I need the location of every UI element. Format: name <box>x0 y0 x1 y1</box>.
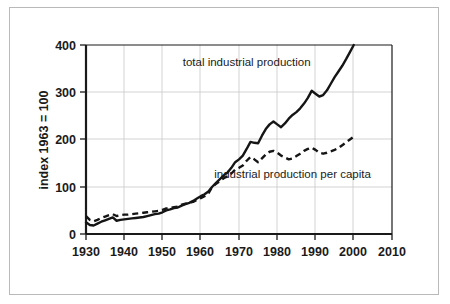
xtick-label-1990: 1990 <box>301 245 329 259</box>
ytick-label-300: 300 <box>55 86 76 100</box>
y-axis-title: index 1963 = 100 <box>37 90 51 189</box>
xtick-label-1950: 1950 <box>148 245 176 259</box>
xtick-label-2000: 2000 <box>339 245 367 259</box>
ytick-label-400: 400 <box>55 39 76 53</box>
ytick-label-200: 200 <box>55 133 76 147</box>
xtick-label-1930: 1930 <box>72 245 100 259</box>
x-tick-labels: 1930 1940 1950 1960 1970 1980 1990 2000 … <box>72 245 406 259</box>
xtick-label-1970: 1970 <box>225 245 253 259</box>
line-chart: 400 300 200 100 0 1930 1940 1950 1960 19… <box>0 0 450 304</box>
xtick-label-2010: 2010 <box>378 245 406 259</box>
ytick-label-0: 0 <box>69 228 76 242</box>
xtick-label-1940: 1940 <box>110 245 138 259</box>
annotation-industrial-production-per-capita: industrial production per capita <box>214 168 371 180</box>
annotation-total-industrial-production: total industrial production <box>183 56 311 68</box>
ytick-label-100: 100 <box>55 181 76 195</box>
y-tick-labels: 400 300 200 100 0 <box>55 39 76 242</box>
xtick-label-1960: 1960 <box>186 245 214 259</box>
figure-root: 400 300 200 100 0 1930 1940 1950 1960 19… <box>0 0 450 304</box>
xtick-label-1980: 1980 <box>263 245 291 259</box>
series-line-total-industrial-production <box>86 45 354 226</box>
gridlines-vertical <box>124 45 353 234</box>
